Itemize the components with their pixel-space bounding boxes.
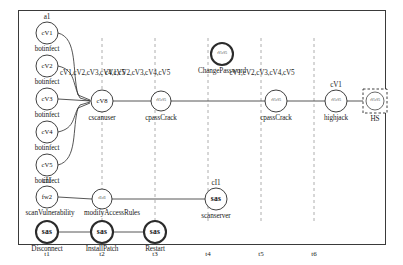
node-modifyaccess-label: cI1.cI1 [98, 197, 105, 200]
node-sas-disconnect-label: sas [42, 228, 53, 236]
sublabel-highjack: highjack [324, 115, 348, 122]
node-sas-scanserver-label: sas [211, 195, 222, 203]
sublabel-cpasscrack-2: cpassCrack [260, 115, 292, 122]
edgelabel-botinfect-4: botinfect [35, 145, 60, 152]
edgelabel-botinfect-1: botinfect [35, 46, 60, 53]
toplabel-highjack-cv1: cV1 [330, 82, 342, 89]
timeline-tick-t4: t4 [205, 250, 210, 258]
sublabel-scanserver: scanserver [201, 213, 230, 220]
node-hs-label: cV1.cV5 [370, 99, 380, 102]
node-passcrack2-label: cV1.cV5 [271, 99, 281, 102]
node-highjack-label: cV1.cV5 [331, 99, 341, 102]
edgelabel-scanvulnerability: scanVulnerability [26, 210, 75, 217]
timeline-tick-t1: t1 [44, 250, 49, 258]
node-cv8-label: cV8 [97, 98, 108, 105]
diagram-canvas: cV1 cV2 cV3 cV4 cV5 fw2 cV8 sas sas sas … [0, 0, 403, 265]
timeline-tick-t6: t6 [311, 250, 316, 258]
diagram-edges [0, 0, 403, 265]
node-cv3-label: cV3 [42, 96, 53, 103]
node-cv5-label: cV5 [42, 162, 53, 169]
node-cv1-label: cV1 [42, 30, 53, 37]
toplabel-scanserver-ci1: cI1 [212, 180, 221, 187]
timeline-tick-t2: t2 [99, 250, 104, 258]
node-sas-restart-label: sas [150, 228, 161, 236]
edgelabel-botinfect-2: botinfect [35, 79, 60, 86]
node-cv4-label: cV4 [42, 129, 53, 136]
node-cv2-label: cV2 [42, 63, 53, 70]
edgelabel-cvlist-2: cV1,cV2,cV3,cV4,cV5 [105, 70, 170, 77]
node-passcrack1-label: cV1.cV5 [156, 99, 166, 102]
edgelabel-botinfect-3: botinfect [35, 112, 60, 119]
timeline-tick-t3: t3 [152, 250, 157, 258]
sublabel-cpasscrack-1: cpassCrack [145, 115, 177, 122]
sublabel-cscanuser: cscanuser [88, 115, 115, 122]
edgelabel-botinfect-5: botinfect [35, 178, 60, 185]
node-fw2-label: fw2 [42, 194, 52, 201]
sublabel-hs: HS [371, 116, 380, 123]
timeline-tick-t5: t5 [258, 250, 263, 258]
edgelabel-modifyaccessrules: modifyAccessRules [84, 210, 140, 217]
edgelabel-cvlist-3: cV1,cV2,cV3,cV4,cV5 [229, 70, 294, 77]
node-changepassword-label: cV1.cV5 [217, 52, 227, 55]
toplabel-a1: a1 [44, 14, 51, 21]
node-sas-installpatch-label: sas [97, 228, 108, 236]
